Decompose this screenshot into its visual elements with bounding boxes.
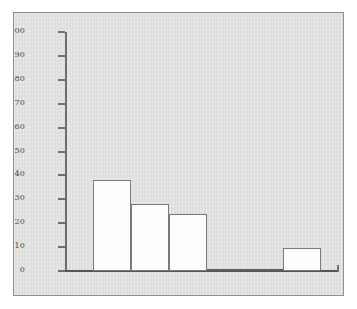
bar xyxy=(131,204,169,271)
bar xyxy=(283,248,321,271)
y-tick-label: 70 xyxy=(13,99,25,107)
y-tick-mark xyxy=(58,222,65,224)
y-tick-label: 30 xyxy=(13,194,25,202)
y-tick-label: 80 xyxy=(13,75,25,83)
y-tick-label: 20 xyxy=(13,218,25,226)
y-tick-mark xyxy=(58,103,65,105)
y-tick-mark xyxy=(58,174,65,176)
bar xyxy=(93,180,131,271)
y-tick-mark xyxy=(58,198,65,200)
bar xyxy=(245,269,283,271)
bar xyxy=(207,269,245,271)
y-tick-mark xyxy=(58,127,65,129)
y-tick-mark xyxy=(58,31,65,33)
plot-area: 0102030405060708090100 xyxy=(14,13,343,295)
y-tick-label: 0 xyxy=(13,266,25,274)
y-tick-label: 90 xyxy=(13,51,25,59)
y-tick-mark xyxy=(58,79,65,81)
y-tick-mark xyxy=(58,246,65,248)
y-tick-label: 10 xyxy=(13,242,25,250)
y-tick-label: 50 xyxy=(13,147,25,155)
y-tick-mark xyxy=(58,151,65,153)
chart-panel: 0102030405060708090100 xyxy=(13,12,344,296)
y-tick-label: 60 xyxy=(13,123,25,131)
figure-container: 0102030405060708090100 xyxy=(0,0,357,309)
y-tick-mark xyxy=(58,55,65,57)
x-axis-end-tick xyxy=(337,265,339,272)
y-axis-line xyxy=(65,32,67,272)
y-tick-mark xyxy=(58,270,65,272)
bar xyxy=(169,214,207,271)
y-tick-label: 40 xyxy=(13,170,25,178)
y-tick-label: 100 xyxy=(13,27,25,35)
